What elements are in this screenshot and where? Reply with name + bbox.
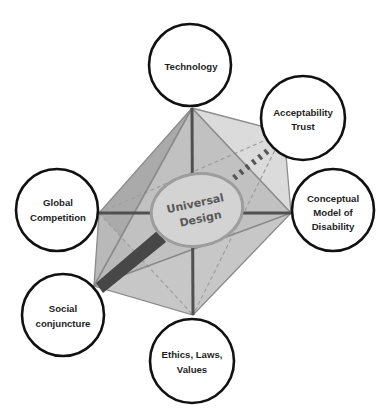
node-label-line: conjuncture — [36, 318, 91, 329]
node-global-competition: Global Competition — [16, 169, 98, 251]
node-acceptability-trust: Acceptability Trust — [261, 76, 345, 160]
node-label-line: Competition — [30, 212, 86, 223]
node-social-conjuncture: Social conjuncture — [22, 274, 104, 356]
node-label-line: Acceptability — [273, 107, 333, 118]
node-label-line: Global — [43, 197, 73, 208]
node-circle — [261, 76, 345, 160]
node-circle — [16, 169, 98, 251]
node-label-line: Technology — [164, 61, 218, 72]
node-label-line: Trust — [291, 121, 315, 132]
node-label-line: Model of — [313, 207, 353, 218]
node-label-line: Ethics, Laws, — [162, 349, 223, 360]
node-label-line: Conceptual — [307, 193, 359, 204]
node-conceptual-model-of-disability: Conceptual Model of Disability — [292, 169, 374, 251]
node-technology: Technology — [149, 24, 231, 106]
octahedron: Universal Design — [94, 108, 291, 315]
node-circle — [22, 274, 104, 356]
node-label-line: Social — [49, 303, 77, 314]
node-label-line: Values — [177, 364, 207, 375]
universal-design-diagram: Universal Design Technology Acceptabilit… — [0, 0, 389, 420]
node-ethics-laws-values: Ethics, Laws, Values — [150, 319, 234, 403]
node-circle — [150, 319, 234, 403]
node-label-line: Disability — [312, 221, 355, 232]
